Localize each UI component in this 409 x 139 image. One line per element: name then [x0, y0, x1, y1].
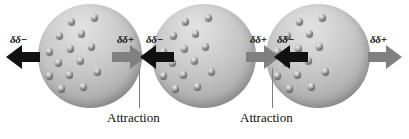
- electron-dot: [322, 68, 329, 75]
- partial-charge-label: δδ+: [370, 33, 387, 45]
- attraction-label: Attraction: [107, 110, 160, 126]
- partial-charge-label: δδ−: [277, 33, 294, 45]
- electron-dot: [46, 48, 53, 55]
- electron-dot: [56, 32, 63, 39]
- electron-dot: [194, 83, 201, 90]
- electron-dot: [316, 43, 323, 50]
- electron-dot: [306, 30, 313, 37]
- dipole-arrow-negative-middle: [140, 44, 174, 70]
- electron-dot: [68, 18, 75, 25]
- electron-dot: [205, 14, 212, 21]
- electron-dot: [46, 72, 53, 79]
- dipole-arrow-negative-right: [274, 44, 308, 70]
- electron-dot: [58, 85, 65, 92]
- electron-dot: [202, 43, 209, 50]
- electron-dot: [274, 72, 281, 79]
- electron-dot: [78, 30, 85, 37]
- electron-dot: [172, 85, 179, 92]
- dipole-arrow-positive-right: [368, 44, 402, 70]
- electron-dot: [180, 71, 187, 78]
- partial-charge-label: δδ+: [117, 33, 134, 45]
- electron-dot: [67, 45, 74, 52]
- electron-dot: [208, 68, 215, 75]
- partial-charge-label: δδ−: [146, 33, 163, 45]
- electron-dot: [55, 59, 62, 66]
- dipole-arrow-negative-left: [6, 44, 40, 70]
- electron-dot: [191, 57, 198, 64]
- electron-dot: [192, 30, 199, 37]
- electron-dot: [296, 18, 303, 25]
- electron-dot: [319, 14, 326, 21]
- electron-dot: [294, 71, 301, 78]
- dispersion-force-diagram: δδ−δδ+δδ−δδ+δδ−δδ+ AttractionAttraction: [0, 0, 409, 139]
- attraction-label: Attraction: [240, 110, 293, 126]
- electron-dot: [94, 68, 101, 75]
- electron-dot: [80, 83, 87, 90]
- electron-dot: [91, 14, 98, 21]
- electron-dot: [66, 71, 73, 78]
- electron-dot: [160, 72, 167, 79]
- electron-dot: [170, 32, 177, 39]
- electron-dot: [182, 18, 189, 25]
- partial-charge-label: δδ+: [250, 33, 267, 45]
- electron-dot: [286, 85, 293, 92]
- attraction-leader-line: [139, 68, 140, 108]
- attraction-leader-line: [272, 68, 273, 108]
- partial-charge-label: δδ−: [10, 33, 27, 45]
- electron-dot: [88, 43, 95, 50]
- electron-dot: [77, 57, 84, 64]
- electron-dot: [308, 83, 315, 90]
- electron-dot: [181, 45, 188, 52]
